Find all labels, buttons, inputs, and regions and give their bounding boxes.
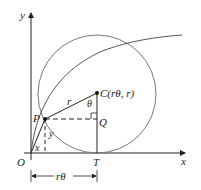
right-angle-marker xyxy=(91,113,97,119)
cycloid-diagram: y x O T P C(rθ, r) Q r θ y x rθ xyxy=(0,0,201,190)
seg-x-label: x xyxy=(34,142,40,153)
arc-length-label: rθ xyxy=(56,170,66,182)
radius-label: r xyxy=(67,95,72,107)
point-t-label: T xyxy=(93,156,100,168)
origin-label: O xyxy=(17,156,25,168)
point-p-label: P xyxy=(32,112,40,124)
point-c-label: C(rθ, r) xyxy=(100,87,134,100)
seg-y-label: y xyxy=(48,128,54,139)
angle-label: θ xyxy=(87,98,92,109)
point-c-dot xyxy=(95,91,99,95)
point-p-dot xyxy=(43,117,47,121)
point-q-label: Q xyxy=(99,116,107,128)
x-axis-label: x xyxy=(180,155,186,167)
y-axis-label: y xyxy=(19,9,25,21)
